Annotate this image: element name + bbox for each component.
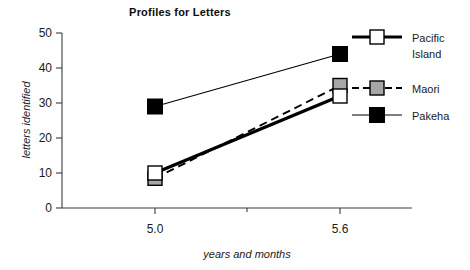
y-axis-title: letters identified	[20, 81, 32, 159]
marker-pakeha-5-0	[148, 99, 163, 114]
legend-marker-pakeha	[370, 108, 385, 123]
series-line-pacific-island	[155, 96, 340, 173]
marker-pakeha-5-6	[333, 47, 348, 62]
y-tick-label-40: 40	[39, 61, 53, 75]
x-axis-ticks	[155, 208, 340, 214]
legend-label-pacific-island-line1: Pacific	[412, 32, 445, 44]
legend-item-pakeha: Pakeha	[352, 108, 450, 123]
x-tick-label-5-6: 5.6	[332, 222, 349, 236]
legend-label-pacific-island-line2: Island	[412, 48, 441, 60]
series-line-maori	[155, 86, 340, 179]
y-tick-label-10: 10	[39, 166, 53, 180]
y-tick-label-50: 50	[39, 26, 53, 40]
legend-label-pakeha: Pakeha	[412, 110, 450, 122]
legend-item-pacific-island: Pacific Island	[352, 30, 445, 60]
legend-marker-maori	[370, 81, 384, 95]
line-chart-plot: 0 10 20 30 40 50 5.0 5.6 years and month…	[0, 0, 470, 270]
legend-item-maori: Maori	[352, 81, 440, 95]
y-tick-label-20: 20	[39, 131, 53, 145]
x-axis-title: years and months	[202, 248, 291, 260]
chart-figure: Profiles for Letters 0 10 20 30 40 50 5.	[0, 0, 470, 270]
y-tick-label-30: 30	[39, 96, 53, 110]
x-tick-label-5-0: 5.0	[147, 222, 164, 236]
y-axis-ticks	[56, 33, 62, 208]
y-tick-label-0: 0	[45, 201, 52, 215]
legend-marker-pacific-island	[370, 30, 384, 44]
marker-pacific-island-5-0	[148, 166, 162, 180]
legend-label-maori: Maori	[412, 83, 440, 95]
marker-pacific-island-5-6	[333, 89, 347, 103]
